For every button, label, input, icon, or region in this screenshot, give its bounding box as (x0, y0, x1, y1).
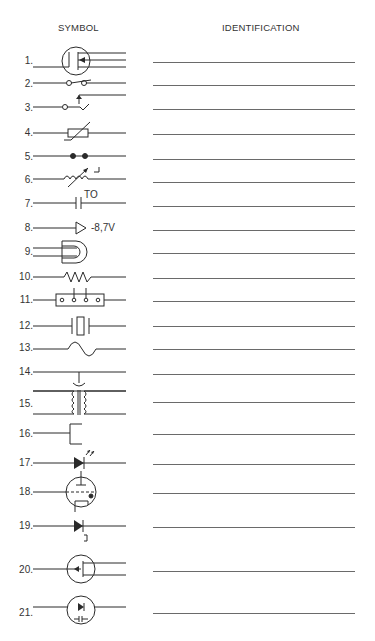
diode-icon (33, 520, 126, 541)
terminal-strip-icon (33, 288, 126, 306)
voltage-label: -8,7V (91, 222, 115, 233)
variable-inductor-icon (33, 167, 126, 187)
two-dots-contacts-icon (33, 154, 126, 159)
resistor-icon (33, 272, 126, 282)
crossing-wires-icon (33, 372, 126, 391)
fet-circle-icon (33, 555, 126, 583)
symbols-canvas: TO -8,7V (0, 0, 375, 641)
diode-in-circle-icon (33, 596, 126, 624)
switch-with-arrow-icon (33, 95, 126, 110)
mosfet-circle-icon (33, 47, 126, 75)
variable-resistor-box-icon (33, 122, 126, 140)
to-label: TO (84, 189, 98, 200)
vacuum-tube-icon (33, 471, 96, 512)
transformer-icon (33, 390, 126, 415)
led-icon (33, 450, 126, 469)
and-gate-icon (33, 241, 87, 263)
e-bracket-icon (33, 424, 82, 444)
capacitor-to-icon: TO (33, 189, 126, 209)
triangle-voltage-icon: -8,7V (33, 222, 115, 234)
open-switch-icon (33, 80, 126, 86)
fuse-icon (33, 342, 126, 356)
crystal-icon (33, 317, 126, 335)
